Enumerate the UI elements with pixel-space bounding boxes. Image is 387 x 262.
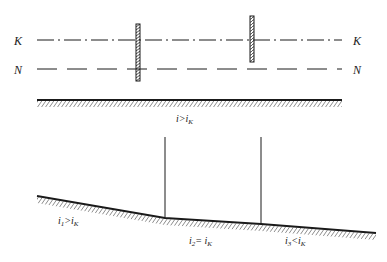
slope-label-top: i>iK (176, 113, 193, 126)
slope-label-1: i1>iK (58, 215, 79, 228)
slope-label-2: i2= iK (189, 235, 212, 248)
k-label-right: K (352, 34, 362, 48)
top-diagram: K K N N i>iK (13, 16, 362, 126)
sluice-gate-1 (136, 24, 140, 81)
k-label-left: K (13, 34, 23, 48)
bed-hatching-bottom (37, 197, 376, 240)
bed-hatching-top (37, 101, 342, 107)
slope-label-3: i3<iK (285, 235, 306, 248)
bottom-diagram: i1>iK i2= iK i3<iK (37, 137, 376, 248)
n-label-right: N (352, 63, 362, 77)
sluice-gate-2 (250, 16, 254, 62)
n-label-left: N (13, 63, 23, 77)
open-channel-diagram: K K N N i>iK i1>iK i2= iK i3<iK (0, 0, 387, 262)
